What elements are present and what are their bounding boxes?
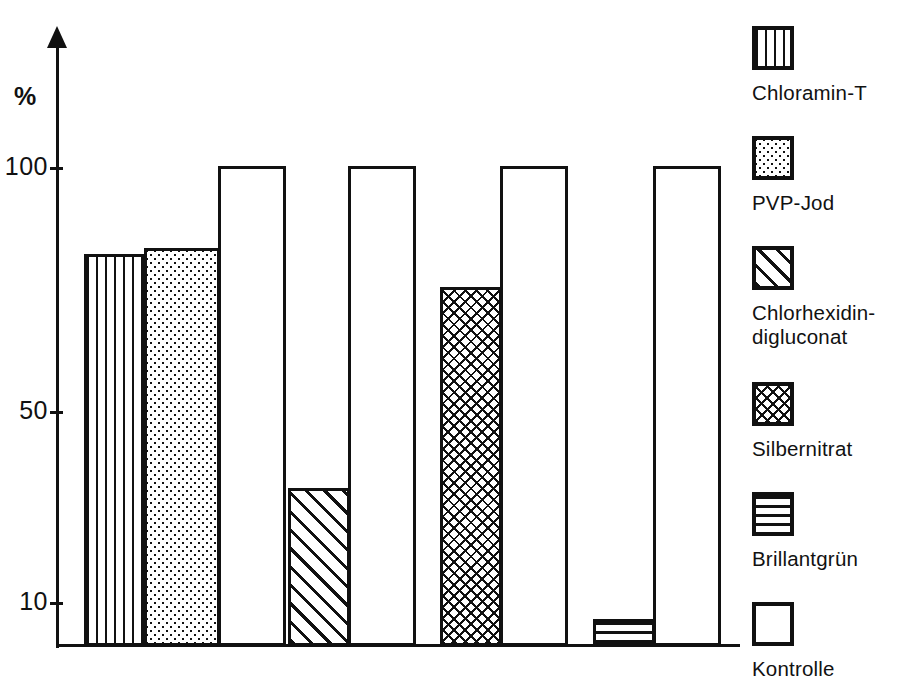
bar-chloramin-t <box>84 254 146 646</box>
legend-item-pvp-jod: PVP-Jod <box>752 136 916 215</box>
y-axis-arrow-icon <box>47 26 67 48</box>
chart-figure: % 100 50 10 Chloramin-T <box>0 0 916 678</box>
bar-silbernitrat <box>440 287 502 646</box>
legend-label-chlorhexidin-digluconat: Chlorhexidin- digluconat <box>752 301 916 349</box>
legend-label-chloramin-t: Chloramin-T <box>752 81 916 105</box>
legend-item-chloramin-t: Chloramin-T <box>752 26 916 105</box>
bar-brillantgruen <box>593 619 655 646</box>
legend-swatch-vertical-lines-icon <box>752 26 794 70</box>
y-axis-line <box>56 42 59 648</box>
legend-swatch-horizontal-lines-icon <box>752 492 794 536</box>
y-tick-label-50: 50 <box>19 398 48 423</box>
legend-label-pvp-jod: PVP-Jod <box>752 191 916 215</box>
legend-item-chlorhexidin-digluconat: Chlorhexidin- digluconat <box>752 246 916 349</box>
legend-item-silbernitrat: Silbernitrat <box>752 382 916 461</box>
bar-pvp-jod <box>144 248 220 646</box>
bar-kontrolle-3 <box>500 166 568 646</box>
y-tick-mark-50 <box>50 411 63 414</box>
bar-chlorhexidin-digluconat <box>288 488 350 646</box>
legend-item-kontrolle: Kontrolle <box>752 602 916 678</box>
y-tick-label-100: 100 <box>5 154 48 179</box>
y-axis-label: % <box>14 84 36 109</box>
y-tick-mark-10 <box>50 602 63 605</box>
legend-swatch-diagonal-hatch-icon <box>752 246 794 290</box>
legend-swatch-dots-icon <box>752 136 794 180</box>
bar-kontrolle-4 <box>653 166 721 646</box>
bar-kontrolle-2 <box>348 166 416 646</box>
legend-item-brillantgruen: Brillantgrün <box>752 492 916 571</box>
legend-swatch-blank-icon <box>752 602 794 646</box>
bar-kontrolle-1 <box>218 166 286 646</box>
legend-label-silbernitrat: Silbernitrat <box>752 437 916 461</box>
legend-label-brillantgruen: Brillantgrün <box>752 547 916 571</box>
legend-swatch-cross-hatch-icon <box>752 382 794 426</box>
y-tick-label-10: 10 <box>19 589 48 614</box>
legend-label-kontrolle: Kontrolle <box>752 657 916 678</box>
y-tick-mark-100 <box>50 167 63 170</box>
plot-area: % 100 50 10 <box>0 0 740 678</box>
